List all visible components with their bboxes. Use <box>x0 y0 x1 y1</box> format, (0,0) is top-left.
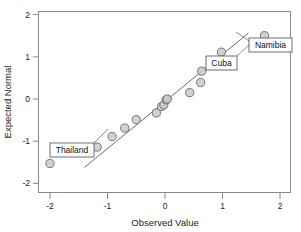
data-point <box>163 95 171 103</box>
data-point <box>132 116 140 124</box>
qq-plot-canvas: 210-1-2 -2-1012 ThailandCubaNamibia Obse… <box>0 0 301 232</box>
data-point <box>217 48 225 56</box>
x-tick-label: 2 <box>278 201 283 211</box>
data-point <box>198 67 206 75</box>
x-tick-label: 1 <box>220 201 225 211</box>
figure-background <box>0 0 301 232</box>
x-tick-label: 0 <box>163 201 168 211</box>
callout-label: Thailand <box>56 145 89 155</box>
y-tick-label: 0 <box>25 94 30 104</box>
qq-plot-figure: 210-1-2 -2-1012 ThailandCubaNamibia Obse… <box>0 0 301 232</box>
data-point <box>108 132 116 140</box>
y-tick-label: 2 <box>25 10 30 20</box>
y-tick-label: 1 <box>25 52 30 62</box>
data-point <box>46 159 54 167</box>
data-point <box>186 89 194 97</box>
callout-label: Cuba <box>211 58 232 68</box>
callout-label: Namibia <box>255 40 286 50</box>
x-tick-label: -2 <box>46 201 54 211</box>
data-point <box>121 124 129 132</box>
data-point <box>197 78 205 86</box>
y-tick-label: -2 <box>22 178 30 188</box>
x-tick-label: -1 <box>104 201 112 211</box>
y-tick-label: -1 <box>22 136 30 146</box>
x-axis-title: Observed Value <box>131 217 198 228</box>
y-axis-title: Expected Normal <box>2 66 13 139</box>
